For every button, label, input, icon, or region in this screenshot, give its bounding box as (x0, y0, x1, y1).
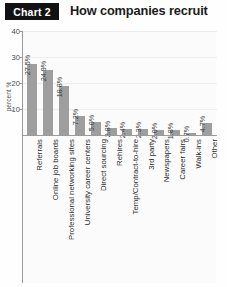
bar-value-label: 4.7% (198, 116, 207, 132)
bar-group: 27.5% (27, 31, 37, 135)
bar: 2.8% (107, 128, 117, 135)
bar-group: 2.8% (107, 31, 117, 135)
x-tick-label: Newspapers (162, 139, 171, 182)
bar-group: 2.0% (154, 31, 164, 135)
bar: 24.9% (43, 70, 53, 135)
bar-value-label: 27.5% (23, 54, 32, 74)
bar-group: 4.7% (202, 31, 212, 135)
bar-group: 24.9% (43, 31, 53, 135)
x-tick-label: Temp/Contract-to-hire (131, 139, 140, 214)
bar-value-label: 2.0% (150, 123, 159, 139)
bar-group: 2.4% (122, 31, 132, 135)
x-tick-label: Walk-ins (194, 139, 203, 169)
bar: 7.2% (75, 116, 85, 135)
x-tick-label: Other (210, 139, 219, 159)
bar-value-label: 18.8% (55, 77, 64, 97)
y-tickmark (20, 31, 23, 32)
y-tickmark (20, 109, 23, 110)
bar-group: 5.0% (91, 31, 101, 135)
bar-value-label: 1.8% (166, 123, 175, 139)
bar-value-label: 5.0% (87, 115, 96, 131)
x-tick-label: Online job boards (51, 139, 60, 200)
bar-group: 1.8% (170, 31, 180, 135)
x-tick-label: Rehires (115, 139, 124, 166)
x-tick-label: Professional networking sites (67, 139, 76, 240)
chart-number-badge: Chart 2 (5, 3, 59, 20)
y-axis: percent % 40 30 20 10 (0, 31, 20, 141)
plot-area: 27.5%24.9%18.8%7.2%5.0%2.8%2.4%2.3%2.0%1… (23, 31, 217, 135)
bar-value-label: 7.2% (71, 109, 80, 125)
bar-group: 0.7% (186, 31, 196, 135)
y-tick-label: 20 (4, 79, 20, 88)
x-tick-label: Referrals (35, 139, 44, 171)
x-tick-label: Career fairs (178, 139, 187, 180)
chart-figure: Chart 2 How companies recruit percent % … (0, 0, 227, 287)
bar: 4.7% (202, 123, 212, 135)
bar: 18.8% (59, 86, 69, 135)
bar-group: 2.3% (138, 31, 148, 135)
x-tick-label: 3rd party (147, 139, 156, 170)
y-tick-label: 10 (4, 105, 20, 114)
bar-group: 7.2% (75, 31, 85, 135)
y-tick-label: 40 (4, 27, 20, 36)
bar-group: 18.8% (59, 31, 69, 135)
x-axis-line (23, 135, 217, 136)
x-tick-label: Direct sourcing (99, 139, 108, 191)
bar: 27.5% (27, 64, 37, 136)
bar: 5.0% (91, 122, 101, 135)
figure-header: Chart 2 How companies recruit (0, 0, 227, 26)
bar-value-label: 24.9% (39, 61, 48, 81)
x-tick-label: University career centers (83, 139, 92, 225)
y-tickmark (20, 83, 23, 84)
plot-frame: 27.5%24.9%18.8%7.2%5.0%2.8%2.4%2.3%2.0%1… (22, 31, 216, 283)
y-tick-label: 30 (4, 53, 20, 62)
page-title: How companies recruit (70, 3, 208, 18)
